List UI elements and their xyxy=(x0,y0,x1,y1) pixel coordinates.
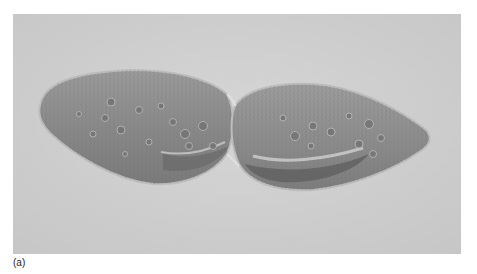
figure-caption: (a) xyxy=(13,257,25,269)
paramecium-micrograph xyxy=(13,14,461,254)
micrograph-frame xyxy=(13,14,461,254)
